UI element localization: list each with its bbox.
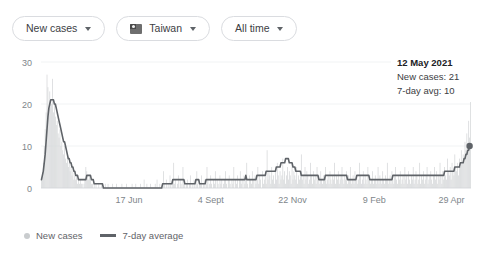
case-bar (70, 171, 71, 188)
case-bar (41, 180, 42, 188)
case-bar (324, 180, 325, 188)
case-bar (275, 171, 276, 188)
case-bar (391, 184, 392, 188)
case-bar (265, 175, 266, 188)
case-bar (177, 184, 178, 188)
case-bar (314, 180, 315, 188)
case-bar (53, 112, 54, 188)
case-bar (315, 175, 316, 188)
case-bar (244, 175, 245, 188)
case-bar (442, 171, 443, 188)
case-bar (348, 175, 349, 188)
case-bar (298, 175, 299, 188)
case-bar (309, 180, 310, 188)
case-bar (220, 175, 221, 188)
case-bar (274, 184, 275, 188)
case-bar (259, 175, 260, 188)
case-bar (87, 175, 88, 188)
legend-item-seven-day-average[interactable]: 7-day average (100, 230, 183, 241)
case-bar (224, 180, 225, 188)
case-bar (441, 175, 442, 188)
case-bar (236, 184, 237, 188)
case-bar (78, 180, 79, 188)
case-bar (437, 184, 438, 188)
case-bar (84, 184, 85, 188)
average-line-path (41, 100, 469, 188)
case-bar (330, 171, 331, 188)
case-bar (393, 180, 394, 188)
case-bar (290, 175, 291, 188)
case-bar (178, 175, 179, 188)
case-bar (232, 180, 233, 188)
case-bar (207, 167, 208, 188)
tooltip-date: 12 May 2021 (397, 56, 483, 70)
case-bar (417, 175, 418, 188)
case-bar (74, 175, 75, 188)
case-bar (411, 175, 412, 188)
case-bar (287, 167, 288, 188)
case-bar (312, 184, 313, 188)
case-bar (383, 180, 384, 188)
case-bar (448, 171, 449, 188)
case-bar (270, 175, 271, 188)
case-bar (250, 180, 251, 188)
case-bar (221, 180, 222, 188)
case-bar (431, 180, 432, 188)
case-bar (57, 121, 58, 188)
time-range-dropdown[interactable]: All time (221, 16, 297, 41)
highlight-point-dot (466, 143, 472, 149)
case-bar (377, 180, 378, 188)
case-bar (461, 150, 462, 188)
case-bar (394, 175, 395, 188)
region-dropdown[interactable]: Taiwan (116, 16, 210, 41)
case-bar (303, 175, 304, 188)
case-bar (175, 180, 176, 188)
case-bar (54, 104, 55, 188)
case-bar (388, 184, 389, 188)
case-bar (251, 184, 252, 188)
case-bar (333, 180, 334, 188)
y-axis-labels: 0102030 (22, 58, 32, 194)
metric-dropdown[interactable]: New cases (12, 16, 105, 41)
case-bar (368, 167, 369, 188)
case-bar (343, 180, 344, 188)
case-bar (364, 184, 365, 188)
case-bar (371, 180, 372, 188)
case-bar (344, 175, 345, 188)
case-bar (393, 184, 394, 188)
case-bar (241, 184, 242, 188)
case-bar (339, 184, 340, 188)
case-bar (455, 167, 456, 188)
case-bar (354, 184, 355, 188)
case-bar (85, 180, 86, 188)
case-bar (331, 180, 332, 188)
case-bar (403, 175, 404, 188)
case-bar (452, 163, 453, 188)
case-bar (446, 180, 447, 188)
case-bar (72, 175, 73, 188)
case-bar (405, 167, 406, 188)
case-bar (335, 184, 336, 188)
x-axis-tick-label: 29 Apr (439, 195, 465, 205)
case-bar (237, 175, 238, 188)
case-bar (61, 142, 62, 188)
case-bar (197, 184, 198, 188)
case-bar (71, 167, 72, 188)
case-bar (280, 171, 281, 188)
case-bar (322, 184, 323, 188)
case-bar (353, 175, 354, 188)
case-bar (262, 171, 263, 188)
case-bar (326, 184, 327, 188)
case-bar (249, 175, 250, 188)
case-bar (269, 171, 270, 188)
case-bar (396, 180, 397, 188)
case-bar (213, 180, 214, 188)
case-bar (444, 167, 445, 188)
case-bar (343, 184, 344, 188)
case-bar (374, 180, 375, 188)
case-bar (430, 171, 431, 188)
legend-item-new-cases[interactable]: New cases (24, 230, 82, 241)
case-bar (363, 171, 364, 188)
case-bar (381, 184, 382, 188)
case-bar (58, 133, 59, 188)
